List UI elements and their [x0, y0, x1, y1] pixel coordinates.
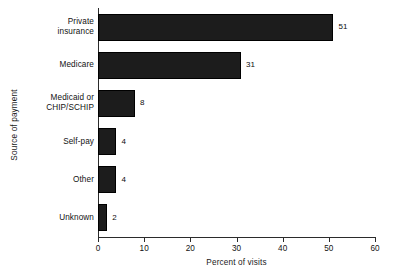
y-axis-category-label-line: Private: [16, 17, 94, 27]
y-axis-category-label: Medicaid orCHIP/SCHIP: [16, 93, 94, 113]
bar: [98, 204, 107, 231]
y-axis-line: [98, 8, 99, 237]
y-axis-category-label: Medicare: [16, 60, 94, 70]
x-axis-tick-label: 50: [314, 244, 344, 254]
plot-area: 513184420102030405060: [98, 8, 375, 237]
y-axis-category-label: Self-pay: [16, 137, 94, 147]
bar: [98, 128, 116, 155]
y-axis-category-label-line: insurance: [16, 27, 94, 37]
y-axis-category-label-line: Medicaid or: [16, 93, 94, 103]
x-axis-tick-label: 20: [175, 244, 205, 254]
bar-chart: Source of payment PrivateinsuranceMedica…: [0, 0, 397, 279]
bar-value-label: 8: [140, 98, 144, 108]
y-axis-category-label: Unknown: [16, 213, 94, 223]
y-axis-category-label-line: Medicare: [16, 60, 94, 70]
bar: [98, 52, 241, 79]
x-axis-tick: [375, 237, 376, 242]
bar-value-label: 2: [112, 213, 116, 223]
x-axis-tick-label: 40: [268, 244, 298, 254]
y-axis-category-label-line: Self-pay: [16, 137, 94, 147]
bar: [98, 166, 116, 193]
y-axis-category-label-line: Unknown: [16, 213, 94, 223]
y-axis-category-label-line: Other: [16, 175, 94, 185]
x-axis-tick-label: 10: [129, 244, 159, 254]
x-axis-tick: [190, 237, 191, 242]
x-axis-tick: [144, 237, 145, 242]
x-axis-tick-label: 60: [360, 244, 390, 254]
bar-value-label: 4: [121, 137, 125, 147]
x-axis-tick: [237, 237, 238, 242]
bar-value-label: 4: [121, 175, 125, 185]
y-axis-category-label: Privateinsurance: [16, 17, 94, 37]
x-axis-title: Percent of visits: [98, 258, 375, 267]
x-axis-tick-label: 30: [222, 244, 252, 254]
y-axis-category-labels: PrivateinsuranceMedicareMedicaid orCHIP/…: [16, 8, 94, 237]
x-axis-tick: [283, 237, 284, 242]
bar: [98, 14, 333, 41]
bar-value-label: 31: [246, 60, 255, 70]
bar-value-label: 51: [338, 22, 347, 32]
x-axis-tick: [98, 237, 99, 242]
y-axis-category-label: Other: [16, 175, 94, 185]
bar: [98, 90, 135, 117]
x-axis-tick: [329, 237, 330, 242]
x-axis-tick-label: 0: [83, 244, 113, 254]
y-axis-category-label-line: CHIP/SCHIP: [16, 103, 94, 113]
